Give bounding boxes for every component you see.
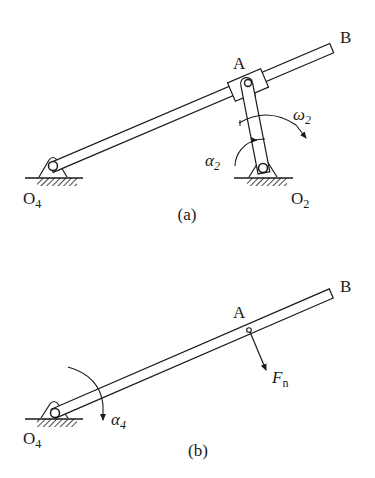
label-alpha4: α4 — [111, 410, 126, 432]
label-fn: Fn — [271, 368, 288, 390]
pin-o2 — [259, 164, 268, 173]
force-fn-arrow — [250, 332, 266, 370]
label-a-b: A — [233, 303, 246, 322]
label-o4-b: O4 — [23, 429, 41, 451]
figure-a: A B O4 O2 ω2 α2 (a) — [23, 28, 351, 224]
label-omega2: ω2 — [293, 105, 311, 127]
label-alpha2: α2 — [205, 151, 220, 173]
label-b-b: B — [340, 277, 351, 296]
mechanism-diagram: A B O4 O2 ω2 α2 (a) A B Fn — [0, 0, 375, 478]
caption-a: (a) — [178, 205, 197, 224]
label-b: B — [340, 28, 351, 47]
point-a-dot — [247, 328, 252, 333]
link-o4b-b — [51, 289, 333, 419]
label-o2: O2 — [291, 189, 309, 211]
label-a: A — [233, 54, 246, 73]
figure-b: A B Fn α4 O4 (b) — [23, 277, 351, 460]
caption-b: (b) — [188, 441, 208, 460]
label-o4: O4 — [23, 189, 41, 211]
pin-a — [245, 80, 252, 87]
pin-o4-b — [51, 409, 60, 418]
link-o4b — [49, 44, 333, 173]
